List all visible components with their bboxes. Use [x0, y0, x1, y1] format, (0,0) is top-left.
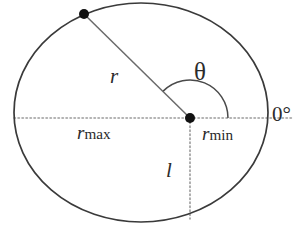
geometry-figure: r θ rmax rmin l 0° [0, 0, 298, 234]
zero-degree-label: 0° [272, 104, 291, 125]
radius-label: r [110, 66, 118, 87]
figure-canvas [0, 0, 298, 234]
r-max-subscript: max [84, 125, 110, 142]
radius-line [84, 14, 190, 118]
r-max-label: rmax [77, 123, 111, 142]
r-min-label: rmin [202, 124, 233, 143]
theta-label-symbol: θ [194, 58, 206, 85]
ellipse-outline [14, 3, 268, 222]
l-label: l [166, 160, 172, 181]
radius-label-symbol: r [110, 64, 118, 88]
origin-point-dot [185, 113, 195, 123]
theta-label: θ [194, 59, 206, 84]
angle-arc [163, 80, 228, 118]
l-label-symbol: l [166, 158, 172, 182]
zero-degree-symbol: 0° [272, 102, 291, 126]
r-min-subscript: min [209, 126, 233, 143]
boundary-point-dot [79, 9, 89, 19]
